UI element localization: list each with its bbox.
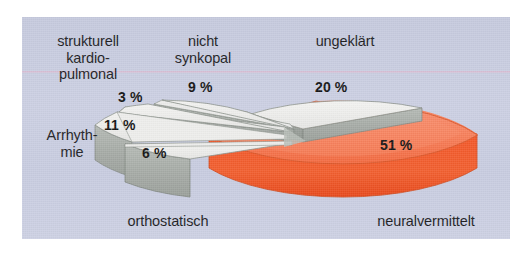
value-arrhythmie: 11 % (104, 117, 136, 133)
value-ungeklaert: 20 % (315, 79, 347, 95)
label-neuralvermittelt: neuralvermittelt (346, 213, 506, 230)
label-ungeklaert: ungeklärt (290, 33, 400, 50)
label-nicht-synkopal: nicht synkopal (150, 33, 256, 66)
label-orthostatisch: orthostatisch (98, 213, 238, 230)
pie-chart-figure: strukturell kardio- pulmonal nicht synko… (0, 0, 524, 255)
chart-panel: strukturell kardio- pulmonal nicht synko… (22, 17, 510, 239)
label-strukturell-kardio-pulmonal: strukturell kardio- pulmonal (28, 33, 148, 83)
value-nicht-synkopal: 9 % (188, 79, 212, 95)
value-neuralvermittelt: 51 % (380, 137, 412, 153)
value-strukturell-kardio-pulmonal: 3 % (118, 89, 142, 105)
value-orthostatisch: 6 % (142, 145, 166, 161)
